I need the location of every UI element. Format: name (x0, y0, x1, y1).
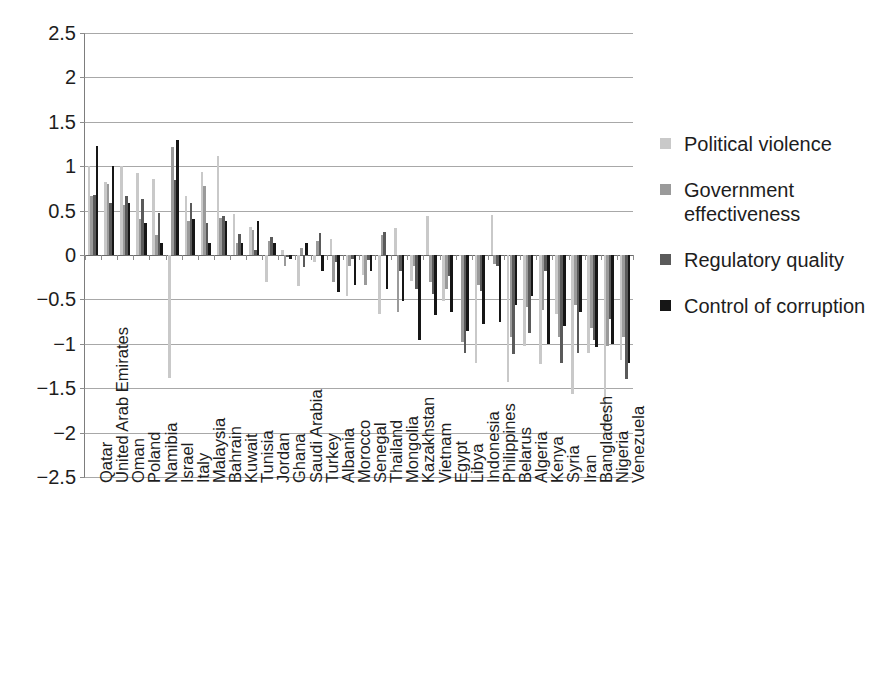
x-axis-tick-label: Israel (179, 443, 196, 483)
bar (579, 255, 582, 312)
x-axis-tick-label: Turkey (324, 433, 341, 483)
bar-group (375, 33, 391, 477)
x-axis-tick (504, 255, 505, 260)
x-axis-tick (149, 255, 150, 260)
x-axis-tick (198, 255, 199, 260)
x-axis-tick (536, 255, 537, 260)
legend-swatch-icon (660, 138, 671, 149)
bar-group (133, 33, 149, 477)
bar-group (85, 33, 101, 477)
x-axis-tick (552, 255, 553, 260)
bar (313, 255, 316, 262)
x-axis-tick (117, 255, 118, 260)
bar (303, 255, 306, 267)
y-axis-tick-label: −2.5 (37, 467, 76, 487)
x-axis-tick (262, 255, 263, 260)
x-axis-tick (617, 255, 618, 260)
bar-group (359, 33, 375, 477)
bar (402, 255, 405, 301)
x-axis-tick (585, 255, 586, 260)
x-axis-tick-label: Libya (469, 444, 486, 483)
legend-label: Political violence (684, 132, 832, 156)
y-axis: 2.521.510.50−0.5−1−1.5−2−2.5 (14, 0, 76, 695)
bar-group (214, 33, 230, 477)
x-axis-tick-label: Ghana (291, 433, 308, 483)
y-axis-tick-label: 1.5 (48, 112, 76, 132)
x-axis-tick-label: Indonesia (485, 411, 502, 483)
bar (563, 255, 566, 326)
bar (265, 255, 268, 282)
x-axis-tick-label: Malaysia (211, 418, 228, 483)
bar (176, 140, 179, 255)
bar (144, 223, 147, 255)
bar (595, 255, 598, 347)
bar (289, 255, 292, 259)
bar-group (327, 33, 343, 477)
legend-entry[interactable]: Control of corruption (660, 294, 875, 318)
x-axis-tick (182, 255, 183, 260)
bar (482, 255, 485, 324)
bar-group (149, 33, 165, 477)
x-axis-tick (440, 255, 441, 260)
chart-legend: Political violenceGovernment effectivene… (660, 132, 875, 340)
bar-group (278, 33, 294, 477)
x-axis-tick-label: Egypt (453, 441, 470, 483)
y-axis-tick-label: −1.5 (37, 378, 76, 398)
legend-entry[interactable]: Political violence (660, 132, 875, 156)
bar (383, 232, 386, 255)
bar-group (456, 33, 472, 477)
x-axis-tick-label: Nigeria (614, 431, 631, 483)
bar-group (182, 33, 198, 477)
legend-entry[interactable]: Government effectiveness (660, 178, 875, 226)
x-axis-tick (343, 255, 344, 260)
bar (434, 255, 437, 315)
x-axis-tick-label: Iran (582, 455, 599, 483)
bar (96, 146, 99, 255)
bar (112, 166, 115, 255)
x-axis-tick (391, 255, 392, 260)
bar-group (569, 33, 585, 477)
bar (225, 221, 228, 255)
bar-group (343, 33, 359, 477)
x-axis-tick-label: Italy (195, 453, 212, 483)
x-axis-tick-label: Saudi Arabia (308, 389, 325, 483)
bar (386, 255, 389, 289)
bar (273, 243, 276, 255)
bar (305, 243, 308, 255)
x-axis-tick (311, 255, 312, 260)
bar (466, 255, 469, 331)
x-axis-tick-label: Albania (340, 428, 357, 483)
x-axis-tick-label: Kazakhstan (420, 397, 437, 483)
bar (300, 248, 303, 255)
x-axis-tick (85, 255, 86, 260)
bar (241, 243, 244, 255)
bar-group (440, 33, 456, 477)
x-axis-tick (633, 255, 634, 260)
x-axis-tick (488, 255, 489, 260)
bar (378, 255, 381, 314)
y-axis-tick-label: 0.5 (48, 201, 76, 221)
bar (321, 255, 324, 271)
x-axis-tick (327, 255, 328, 260)
legend-swatch-icon (660, 300, 671, 311)
bar (628, 255, 631, 363)
bar (450, 255, 453, 312)
x-axis-tick (230, 255, 231, 260)
bar (515, 255, 518, 305)
governance-indicators-bar-chart: 2.521.510.50−0.5−1−1.5−2−2.5 QatarUnited… (0, 0, 889, 695)
bar-group (230, 33, 246, 477)
bar (128, 203, 131, 255)
bar (394, 228, 397, 255)
y-axis-tick-label: −0.5 (37, 289, 76, 309)
bar (257, 221, 260, 255)
x-axis-tick (407, 255, 408, 260)
legend-entry[interactable]: Regulatory quality (660, 248, 875, 272)
bar-group (166, 33, 182, 477)
x-axis-tick (569, 255, 570, 260)
bar (297, 255, 300, 286)
bar (499, 255, 502, 322)
bar-group (246, 33, 262, 477)
legend-swatch-icon (660, 184, 671, 195)
y-axis-tick-label: 1 (65, 156, 76, 176)
x-axis-tick (101, 255, 102, 260)
